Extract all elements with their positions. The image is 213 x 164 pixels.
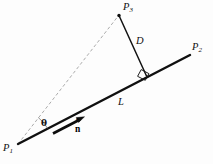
label-distance-d: D [136, 36, 144, 47]
label-p2-subscript: 2 [198, 46, 202, 54]
label-n-hat-accent: ˆ [76, 118, 79, 128]
diagram-canvas [0, 0, 213, 164]
label-p3-subscript: 3 [129, 6, 133, 14]
line-segment-p1-p2 [18, 55, 190, 144]
vertex-dot-p3 [117, 14, 120, 17]
label-length-l: L [118, 97, 124, 108]
label-point-p1: P1 [3, 143, 13, 155]
label-angle-theta: θ [41, 119, 47, 128]
label-unit-normal-n: ˆ n [75, 124, 80, 134]
figure-container: P1 P2 P3 D L θ ˆ n [0, 0, 213, 164]
label-p1-subscript: 1 [9, 147, 13, 155]
label-point-p2: P2 [192, 42, 202, 54]
label-point-p3: P3 [123, 2, 133, 14]
